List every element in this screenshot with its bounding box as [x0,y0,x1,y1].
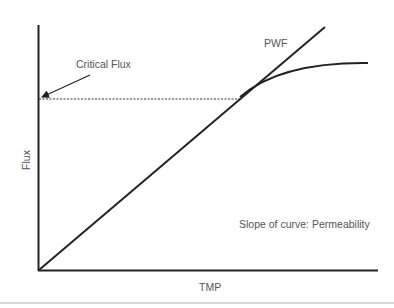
slope-note-label: Slope of curve: Permeability [239,218,370,230]
critical-flux-label: Critical Flux [76,58,132,70]
critical-flux-arrow [42,75,90,97]
y-axis-label: Flux [20,149,32,170]
x-axis-label: TMP [199,281,221,293]
critical-flux-diagram: Critical Flux PWF Slope of curve: Permea… [0,0,394,308]
flux-curve [240,63,368,97]
pwf-label: PWF [264,37,287,49]
